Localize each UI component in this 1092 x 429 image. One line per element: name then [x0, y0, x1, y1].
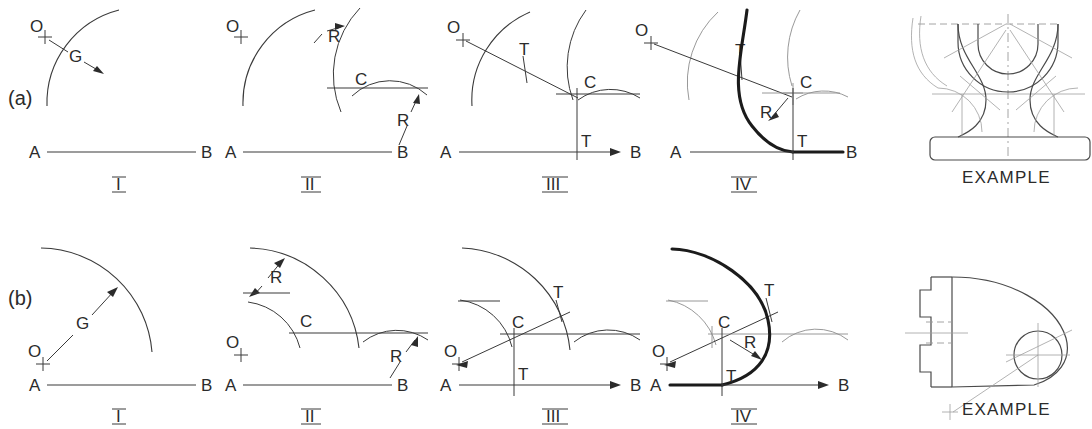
radius-arrowhead — [751, 351, 762, 360]
label-arc-center-c: C — [584, 73, 596, 92]
label-line-start-a: A — [225, 376, 237, 395]
step-b-1: O G A B I — [28, 248, 212, 426]
label-center-o: O — [635, 21, 648, 40]
label-radius-r: R — [744, 333, 756, 352]
label-line-start-a: A — [670, 143, 682, 162]
offset-arc-radius-r — [333, 8, 360, 112]
label-line-end-b: B — [201, 376, 212, 395]
example-b: EXAMPLE — [905, 277, 1072, 420]
arc-from-b — [363, 330, 428, 342]
svg-text:II: II — [305, 407, 314, 426]
label-arc-center-c: C — [300, 312, 312, 331]
given-arc-construction — [687, 12, 718, 100]
label-radius-bottom-r: R — [397, 111, 409, 130]
label-center-o: O — [30, 17, 43, 36]
row-a: (a) O G A B I — [8, 8, 1090, 194]
center-line-o-to-c — [654, 44, 792, 97]
radius-arrowhead — [107, 287, 118, 297]
label-line-start-a: A — [440, 143, 452, 162]
example-caption-a: EXAMPLE — [962, 168, 1051, 187]
numeral-b-1: I — [112, 407, 126, 426]
label-center-o: O — [226, 333, 239, 352]
label-tangent-upper-t: T — [553, 283, 563, 302]
radius-arrowhead-top — [274, 258, 285, 268]
arc-from-b — [782, 329, 848, 342]
numeral-b-4: IV — [731, 407, 757, 426]
label-radius-bottom-r: R — [390, 347, 402, 366]
leader-cross-mark — [942, 404, 958, 420]
row-label-a: (a) — [8, 87, 32, 109]
label-line-end-b: B — [397, 143, 408, 162]
svg-text:I: I — [116, 175, 121, 194]
label-center-o: O — [444, 342, 457, 361]
numeral-a-3: III — [542, 175, 568, 194]
label-tangent-lower-t: T — [726, 367, 736, 386]
label-tangent-upper-t: T — [764, 281, 774, 300]
label-radius-top-r: R — [270, 268, 282, 287]
center-line-arrowhead — [456, 361, 468, 368]
label-line-end-b: B — [397, 376, 408, 395]
tangent-tick-upper — [523, 56, 527, 83]
step-a-2: O R C R A B II — [225, 8, 428, 194]
numeral-b-2: II — [301, 407, 321, 426]
label-line-start-a: A — [440, 376, 452, 395]
line-arrowhead-b — [818, 381, 829, 389]
label-radius-r: R — [760, 103, 772, 122]
label-center-o: O — [652, 342, 665, 361]
radius-arrowhead — [93, 66, 104, 74]
radius-arrowhead-bottom — [411, 336, 418, 347]
center-line-arrowhead — [664, 361, 676, 368]
label-line-end-b: B — [630, 143, 641, 162]
step-a-3: O T C T A B III — [440, 10, 641, 194]
tangent-fillet-arc — [738, 10, 793, 152]
svg-text:II: II — [305, 175, 314, 194]
given-arc — [47, 10, 119, 106]
numeral-a-4: IV — [731, 175, 757, 194]
given-arc — [243, 10, 315, 106]
arc-from-b — [796, 91, 848, 99]
bracket-outer-profile — [952, 277, 1067, 387]
label-tangent-lower-t: T — [581, 132, 591, 151]
step-b-2: O R C R A B II — [225, 248, 428, 426]
construction-arc — [911, 18, 938, 88]
line-arrowhead-b — [610, 148, 621, 156]
step-b-3: O T C T A B III — [440, 248, 641, 426]
step-b-4: O T C T R A B IV — [650, 249, 849, 426]
label-line-end-b: B — [838, 376, 849, 395]
offset-arc-construction — [788, 10, 800, 86]
label-line-start-a: A — [29, 143, 41, 162]
label-line-end-b: B — [630, 376, 641, 395]
label-arc-center-c: C — [718, 313, 730, 332]
line-arrowhead-b — [610, 381, 621, 389]
label-arc-center-c: C — [800, 73, 812, 92]
label-line-start-a: A — [29, 376, 41, 395]
offset-arc — [460, 300, 512, 347]
svg-text:III: III — [546, 407, 560, 426]
example-caption-b: EXAMPLE — [962, 400, 1051, 419]
label-tangent-lower-t: T — [797, 132, 807, 151]
label-tangent-upper-t: T — [519, 40, 529, 59]
label-given-radius-g: G — [76, 314, 89, 333]
label-line-start-a: A — [650, 376, 662, 395]
bracket-left-profile — [920, 277, 931, 387]
label-arc-center-c: C — [355, 70, 367, 89]
radius-arrowhead-bottom — [413, 94, 420, 104]
technical-drawing-sheet: (a) O G A B I — [0, 0, 1092, 429]
row-b: (b) O G A B I — [8, 248, 1072, 426]
offset-arc-construction — [668, 300, 716, 345]
base-plate — [930, 137, 1090, 160]
label-center-o: O — [226, 17, 239, 36]
svg-text:I: I — [116, 407, 121, 426]
label-tangent-lower-t: T — [518, 365, 528, 384]
label-line-end-b: B — [201, 143, 212, 162]
label-line-end-b: B — [846, 143, 857, 162]
label-line-start-a: A — [225, 143, 237, 162]
numeral-a-1: I — [112, 175, 126, 194]
row-label-b: (b) — [8, 287, 32, 309]
svg-text:III: III — [546, 175, 560, 194]
step-a-4: O T C T R A B IV — [635, 10, 857, 194]
svg-text:IV: IV — [735, 407, 752, 426]
numeral-b-3: III — [542, 407, 568, 426]
offset-arc-radius-r — [248, 302, 300, 348]
label-radius-top-r: R — [328, 27, 340, 46]
